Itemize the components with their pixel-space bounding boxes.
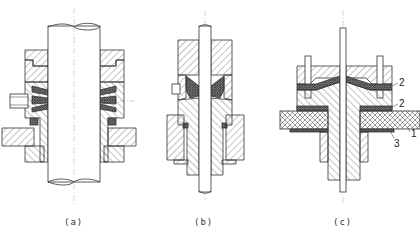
cross-section-figure [0, 0, 420, 234]
panel-b-drawing [167, 10, 244, 200]
panel-label-a: (a) [64, 217, 83, 227]
callout-2-lower: 2 [399, 98, 405, 109]
callout-2-upper: 2 [399, 77, 405, 88]
panel-label-b: (b) [194, 217, 213, 227]
panel-label-c: (c) [333, 217, 352, 227]
callout-1: 1 [411, 128, 417, 139]
panel-a-drawing [2, 8, 136, 205]
callout-3: 3 [394, 138, 400, 149]
